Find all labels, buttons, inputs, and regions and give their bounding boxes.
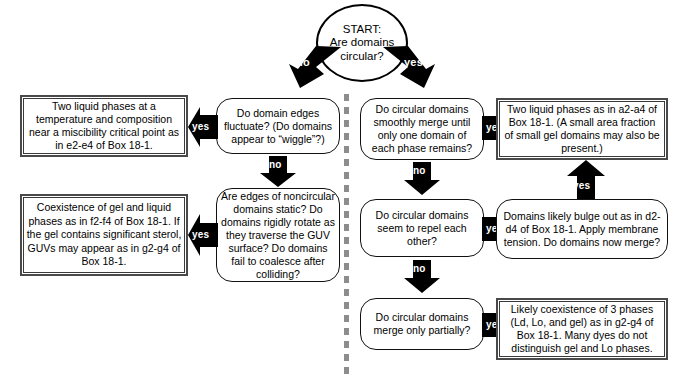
arrow-start-yes-label: yes	[404, 57, 423, 68]
node-q-domains-bulge-out: Domains likely bulge out as in d2-d4 of …	[496, 199, 668, 259]
node-q-circular-domains-repel: Do circular domains seem to repel each o…	[360, 199, 484, 257]
node-result-two-liquid-phases-a2-a4: Two liquid phases as in a2-a4 of Box 18-…	[496, 98, 668, 160]
arrow-bulge-yes-label: yes	[573, 181, 590, 191]
node-q-circular-domains-smoothly-merge: Do circular domains smoothly merge until…	[360, 98, 484, 160]
node-result-two-liquid-phases-critical-point: Two liquid phases at a temperature and c…	[20, 95, 188, 157]
node-q-circular-domains-repel-label: Do circular domains seem to repel each o…	[366, 209, 478, 248]
node-q-circular-domains-merge-partially-label: Do circular domains merge only partially…	[366, 311, 478, 337]
arrow-repel-no-label: no	[413, 264, 426, 274]
arrow-fluctuate-yes-label: yes	[192, 122, 209, 132]
node-q-noncircular-domains-static-label: Are edges of noncircular domains static?…	[221, 190, 335, 281]
node-result-three-phase-coexistence-label: Likely coexistence of 3 phases (Ld, Lo, …	[503, 303, 661, 355]
node-result-two-liquid-phases-critical-point-label: Two liquid phases at a temperature and c…	[27, 100, 181, 152]
arrow-start-no-label: no	[296, 57, 310, 68]
arrow-fluctuate-no-label: no	[269, 160, 282, 170]
node-result-coexistence-gel-and-liquid: Coexistence of gel and liquid phases as …	[20, 194, 188, 276]
flowchart-canvas: START: Are domains circular? no yes Do d…	[0, 0, 689, 378]
arrow-smoothmerge-no-label: no	[413, 166, 426, 176]
arrow-start-no	[286, 44, 344, 92]
node-q-domain-edges-fluctuate-label: Do domain edges fluctuate? (Do domains a…	[222, 107, 334, 146]
node-result-three-phase-coexistence: Likely coexistence of 3 phases (Ld, Lo, …	[496, 298, 668, 360]
node-q-circular-domains-smoothly-merge-label: Do circular domains smoothly merge until…	[366, 103, 478, 155]
node-q-circular-domains-merge-partially: Do circular domains merge only partially…	[360, 298, 484, 350]
vertical-dashed-divider	[344, 94, 349, 378]
arrow-noncircular-yes-label: yes	[192, 230, 209, 240]
node-result-two-liquid-phases-a2-a4-label: Two liquid phases as in a2-a4 of Box 18-…	[503, 103, 661, 155]
node-q-domains-bulge-out-label: Domains likely bulge out as in d2-d4 of …	[502, 210, 662, 249]
node-q-noncircular-domains-static: Are edges of noncircular domains static?…	[216, 188, 340, 282]
arrow-start-yes	[380, 44, 438, 92]
node-q-domain-edges-fluctuate: Do domain edges fluctuate? (Do domains a…	[216, 98, 340, 154]
node-result-coexistence-gel-and-liquid-label: Coexistence of gel and liquid phases as …	[26, 201, 182, 269]
